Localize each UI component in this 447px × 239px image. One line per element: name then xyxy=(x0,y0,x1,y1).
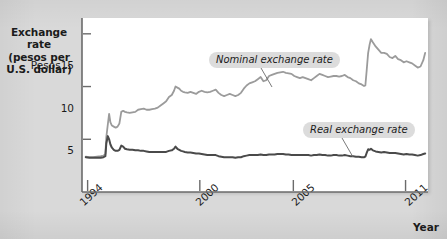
exchange-rate-figure: Exchange rate (pesos per U.S. dollar) Pe… xyxy=(0,0,447,239)
callout-nominal-exchange-rate: Nominal exchange rate xyxy=(209,52,340,68)
leader-line-real xyxy=(342,138,353,157)
callout-real-exchange-rate: Real exchange rate xyxy=(303,122,415,138)
y-axis-ticks xyxy=(83,34,91,139)
series-line-real-exchange-rate xyxy=(86,136,425,158)
chart-svg xyxy=(0,0,447,239)
leader-line-nominal xyxy=(261,68,272,87)
annotation-leader-lines xyxy=(261,68,353,157)
x-axis-ticks xyxy=(88,180,406,191)
